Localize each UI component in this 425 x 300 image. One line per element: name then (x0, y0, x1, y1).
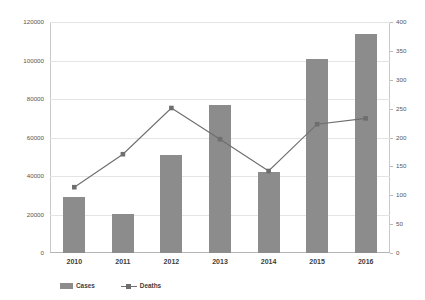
right-axis-tick-label: 150 (396, 163, 422, 169)
chart-legend: Cases Deaths (60, 280, 161, 292)
deaths-marker-2014 (266, 169, 271, 174)
legend-label-deaths: Deaths (140, 283, 161, 289)
right-axis-tick-label: 200 (396, 135, 422, 141)
right-axis-tick-label: 250 (396, 106, 422, 112)
x-axis-label-2015: 2015 (294, 258, 340, 265)
x-axis-label-2014: 2014 (246, 258, 292, 265)
right-axis-tick-mark (390, 80, 393, 81)
right-axis-tick-mark (390, 138, 393, 139)
x-axis-label-2011: 2011 (100, 258, 146, 265)
line-square-swatch-icon (121, 283, 137, 289)
deaths-marker-2010 (72, 185, 77, 190)
left-axis-tick-label: 80000 (2, 96, 44, 102)
right-axis-tick-mark (390, 224, 393, 225)
left-axis-tick-label: 100000 (2, 58, 44, 64)
x-axis-label-2012: 2012 (148, 258, 194, 265)
left-axis-tick-label: 120000 (2, 19, 44, 25)
line-series-deaths (50, 22, 390, 253)
right-axis-tick-mark (390, 195, 393, 196)
deaths-marker-2016 (363, 116, 368, 121)
right-axis-tick-label: 0 (396, 250, 422, 256)
plot-area (50, 22, 390, 253)
left-axis-tick-label: 60000 (2, 135, 44, 141)
right-axis-tick-mark (390, 51, 393, 52)
right-axis-tick-label: 100 (396, 192, 422, 198)
right-axis-tick-label: 50 (396, 221, 422, 227)
deaths-marker-2011 (121, 152, 126, 157)
deaths-line-path (74, 108, 365, 187)
legend-item-deaths[interactable]: Deaths (121, 283, 161, 289)
right-axis-tick-mark (390, 166, 393, 167)
left-axis-tick-label: 40000 (2, 173, 44, 179)
bar-swatch-icon (60, 283, 73, 289)
legend-label-cases: Cases (76, 283, 95, 289)
left-axis-tick-label: 0 (2, 250, 44, 256)
left-axis-tick-label: 20000 (2, 212, 44, 218)
deaths-marker-2015 (315, 122, 320, 127)
deaths-marker-2013 (218, 137, 223, 142)
legend-item-cases[interactable]: Cases (60, 283, 95, 289)
right-axis-tick-mark (390, 22, 393, 23)
right-axis-tick-label: 300 (396, 77, 422, 83)
x-axis-label-2016: 2016 (343, 258, 389, 265)
x-axis-label-2013: 2013 (197, 258, 243, 265)
right-axis-tick-mark (390, 109, 393, 110)
right-axis-tick-label: 350 (396, 48, 422, 54)
x-axis-label-2010: 2010 (51, 258, 97, 265)
chart-container: 020000400006000080000100000120000 050100… (0, 0, 425, 300)
right-axis-tick-mark (390, 253, 393, 254)
deaths-marker-2012 (169, 106, 174, 111)
right-axis-tick-label: 400 (396, 19, 422, 25)
